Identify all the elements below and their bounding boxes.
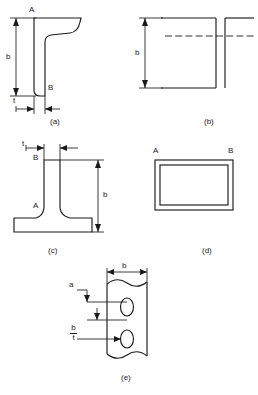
dimension-t-panel-c: t xyxy=(22,140,24,148)
panel-a-drawing xyxy=(0,0,129,118)
dimension-a-panel-e: a xyxy=(69,281,73,289)
point-label-b-panel-d: B xyxy=(228,147,233,155)
point-label-a-panel-c: A xyxy=(33,202,38,210)
ratio-b-over-t-panel-e: b t xyxy=(69,324,78,343)
arrowhead-t-left-c xyxy=(37,145,44,151)
ratio-denominator-panel-e: t xyxy=(69,334,78,342)
panel-c: t B A b (c) xyxy=(0,140,129,265)
panel-b-drawing xyxy=(129,0,258,118)
engineering-figure: A B b t (a) b (b) xyxy=(0,0,258,395)
slotted-hole-lower-e xyxy=(121,330,134,348)
point-label-b-panel-c: B xyxy=(33,154,38,162)
arrowhead-t-right-a xyxy=(45,106,52,112)
panel-d: A B (d) xyxy=(129,140,258,265)
arrowhead-b-right-e xyxy=(140,269,147,275)
ratio-numerator-panel-e: b xyxy=(69,324,78,332)
arrowhead-t-left-a xyxy=(27,106,34,112)
point-label-b-panel-a: B xyxy=(48,84,53,92)
break-line-bottom-e xyxy=(107,352,147,359)
panel-a: A B b t (a) xyxy=(0,0,129,135)
point-label-a-panel-d: A xyxy=(153,147,158,155)
arrowhead-t-right-c xyxy=(60,145,67,151)
arrowhead-b-bottom-b xyxy=(142,80,148,88)
caption-panel-b: (b) xyxy=(204,118,214,126)
point-label-a-panel-a: A xyxy=(29,6,34,14)
arrowhead-pitch-e xyxy=(94,313,100,320)
arrowhead-b-top-b xyxy=(142,18,148,26)
arrowhead-b-bottom-a xyxy=(13,88,19,96)
panel-e: b a b t (e) xyxy=(55,262,205,392)
dimension-b-panel-c: b xyxy=(103,191,107,199)
arrowhead-b-left-e xyxy=(107,269,114,275)
dimension-b-panel-b: b xyxy=(135,49,139,57)
outer-rectangle-d xyxy=(155,160,233,210)
section-outline-c xyxy=(14,160,92,232)
caption-panel-d: (d) xyxy=(202,247,212,255)
slotted-hole-upper-e xyxy=(121,298,134,316)
arrowhead-b-top-c xyxy=(95,160,101,168)
panel-d-drawing xyxy=(129,140,258,250)
arrowhead-b-top-a xyxy=(13,18,19,26)
inner-rectangle-d xyxy=(160,165,228,205)
panel-b: b (b) xyxy=(129,0,258,135)
dimension-b-top-panel-e: b xyxy=(122,262,126,270)
figure-footer xyxy=(0,386,258,395)
caption-panel-e: (e) xyxy=(121,374,131,382)
panel-e-drawing xyxy=(55,262,205,377)
break-line-top-e xyxy=(107,280,147,287)
dimension-t-panel-a: t xyxy=(13,97,15,105)
arrowhead-ratio-e xyxy=(114,336,121,342)
dimension-b-panel-a: b xyxy=(6,53,10,61)
caption-panel-a: (a) xyxy=(50,118,60,126)
arrowhead-b-bottom-c xyxy=(95,224,101,232)
caption-panel-c: (c) xyxy=(48,247,57,255)
panel-c-drawing xyxy=(0,140,129,250)
arrowhead-a-e xyxy=(84,295,90,302)
section-outline-a xyxy=(34,18,81,96)
